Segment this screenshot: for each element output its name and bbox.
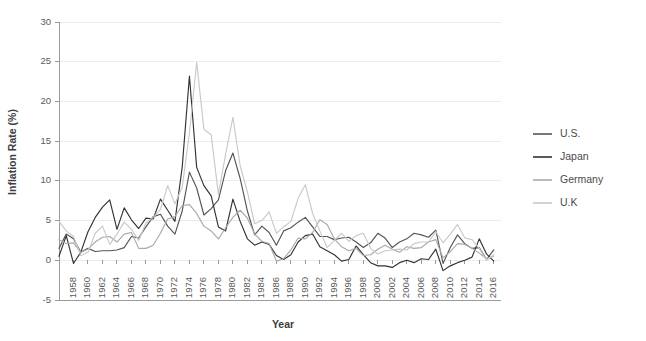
x-tick-label: 1996 xyxy=(342,277,353,298)
x-tick-label: 1964 xyxy=(110,277,121,298)
x-tick-label: 1972 xyxy=(168,277,179,298)
x-tick-label: 2002 xyxy=(386,277,397,298)
y-tick-label: 5 xyxy=(46,214,51,225)
x-tick-label: 2014 xyxy=(473,277,484,298)
x-tick-label: 1992 xyxy=(313,277,324,298)
y-axis-title: Inflation Rate (%) xyxy=(6,109,18,195)
legend-label-u-s: U.S. xyxy=(560,127,580,139)
y-tick-label: 30 xyxy=(40,16,51,27)
x-tick-label: 1968 xyxy=(139,277,150,298)
x-tick-label: 1990 xyxy=(299,277,310,298)
chart-legend: U.S.JapanGermanyU.K xyxy=(533,127,604,208)
x-tick-label: 1998 xyxy=(357,277,368,298)
data-series-lines xyxy=(59,63,494,271)
x-tick-label: 1980 xyxy=(226,277,237,298)
y-tick-label: -5 xyxy=(43,294,51,305)
inflation-rate-line-chart: -5051015202530 1958196019621964196619681… xyxy=(0,0,646,341)
y-tick-label: 25 xyxy=(40,55,51,66)
y-tick-label: 0 xyxy=(46,254,51,265)
x-tick-label: 1988 xyxy=(284,277,295,298)
grid-lines xyxy=(59,22,501,260)
legend-label-u-k: U.K xyxy=(560,196,578,208)
y-axis-ticks: -5051015202530 xyxy=(40,16,59,305)
x-tick-label: 1960 xyxy=(81,277,92,298)
x-tick-label: 1994 xyxy=(328,277,339,298)
x-tick-label: 2010 xyxy=(444,277,455,298)
legend-label-germany: Germany xyxy=(560,173,604,185)
x-tick-label: 1962 xyxy=(96,277,107,298)
y-tick-label: 15 xyxy=(40,135,51,146)
x-tick-label: 1970 xyxy=(154,277,165,298)
x-tick-label: 1966 xyxy=(125,277,136,298)
x-tick-label: 2008 xyxy=(429,277,440,298)
x-tick-label: 1978 xyxy=(212,277,223,298)
x-axis-title: Year xyxy=(272,318,294,330)
x-tick-label: 1958 xyxy=(67,277,78,298)
x-tick-label: 1976 xyxy=(197,277,208,298)
legend-label-japan: Japan xyxy=(560,150,589,162)
x-axis-ticks: 1958196019621964196619681970197219741976… xyxy=(67,260,498,298)
x-tick-label: 1984 xyxy=(255,277,266,298)
y-tick-label: 20 xyxy=(40,95,51,106)
y-tick-label: 10 xyxy=(40,174,51,185)
x-tick-label: 2004 xyxy=(400,277,411,298)
axes xyxy=(59,22,501,300)
x-tick-label: 1986 xyxy=(270,277,281,298)
chart-canvas: -5051015202530 1958196019621964196619681… xyxy=(0,0,646,341)
x-tick-label: 2012 xyxy=(458,277,469,298)
series-line-u-k xyxy=(59,63,494,261)
x-tick-label: 1982 xyxy=(241,277,252,298)
x-tick-label: 2000 xyxy=(371,277,382,298)
x-tick-label: 2016 xyxy=(487,277,498,298)
x-tick-label: 1974 xyxy=(183,277,194,298)
x-tick-label: 2006 xyxy=(415,277,426,298)
